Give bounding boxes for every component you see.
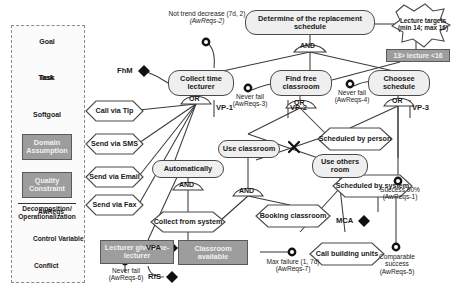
legend-domain-assumption: Domain Assumption xyxy=(22,134,72,160)
goal-find-free-classroom[interactable]: Find free classroom xyxy=(270,70,332,96)
awreqs-5-text: Comparable success xyxy=(379,253,415,267)
awreqs-2-text: Not trend decrease (7d, 2) xyxy=(169,10,246,17)
connector-or-findfree: OR xyxy=(294,99,305,106)
goal-use-classroom[interactable]: Use classroom xyxy=(218,140,280,158)
task-send-via-email[interactable]: Send via Email xyxy=(86,167,143,187)
awreqs-1-text: Success 90% xyxy=(380,186,420,193)
awreqs-5-ref: (AwReqs-5) xyxy=(380,268,415,275)
control-variable-mca: MCA xyxy=(336,216,353,225)
awreqs-2-label: Not trend decrease (7d, 2) (AwReqs-2) xyxy=(163,10,251,25)
legend-control-variable-label: Control Variable xyxy=(33,235,85,242)
legend-quality-constraint: Quality Constraint xyxy=(22,172,72,198)
awreqs-7-ref: (AwReqs-7) xyxy=(276,265,311,272)
awreqs-1-label: Success 90% (AwReqs-1) xyxy=(371,186,429,201)
awreqs-7-text: Max failure (1, 7d) xyxy=(266,258,319,265)
quality-constraint-lecture-range[interactable]: 13> lecture <16 xyxy=(386,49,450,62)
task-call-via-tlp[interactable]: Call via Tlp xyxy=(86,101,143,121)
softgoal-lecture-targets[interactable]: Lecture targets (min 14; max 16) xyxy=(394,14,452,36)
awreqs-3-ref: (AwReqs-3) xyxy=(233,100,268,107)
awreqs-5-label: Comparable success (AwReqs-5) xyxy=(368,253,426,275)
goal-automatically[interactable]: Automatically xyxy=(152,160,224,178)
legend-label-task: Task xyxy=(11,74,83,82)
control-variable-fhm: FhM xyxy=(117,66,133,75)
task-send-via-sms[interactable]: Send via SMS xyxy=(86,134,143,154)
domain-assumption-lecturer-give-time[interactable]: Lecturer give time-lecturer xyxy=(100,240,174,264)
control-variable-rfs: RfS xyxy=(148,272,161,281)
connector-or-collect: OR xyxy=(189,95,200,102)
awreqs-4-ref: (AwReqs-4) xyxy=(335,96,370,103)
connector-or-choosee: OR xyxy=(392,97,403,104)
awreqs-3-text: Never fail xyxy=(236,93,264,100)
task-booking-classroom[interactable]: Booking classroom xyxy=(256,205,330,227)
control-variable-vpa: VPA xyxy=(146,243,161,252)
legend-divider xyxy=(18,203,76,204)
legend-label-softgoal: Softgoal xyxy=(11,111,83,119)
diagram-canvas: Goal Task Softgoal Domain Assumption Qua… xyxy=(0,0,466,307)
variation-point-vp1: VP-1 xyxy=(216,103,233,112)
connector-and-useclassroom: AND xyxy=(239,187,254,194)
goal-determine-replacement-schedule[interactable]: Determine of the replacement schedule xyxy=(245,10,375,35)
awreqs-7-label: Max failure (1, 7d) (AwReqs-7) xyxy=(266,258,320,273)
connector-and-automatically: AND xyxy=(179,181,194,188)
awreqs-4-text: Never fail xyxy=(338,89,366,96)
awreqs-6-text: Never fail xyxy=(112,267,140,274)
awreqs-2-ref: (AwReqs-2) xyxy=(190,17,225,24)
task-collect-from-system[interactable]: Collect from system xyxy=(151,212,225,232)
task-scheduled-by-person[interactable]: Scheduled by person xyxy=(318,128,392,150)
legend-relation-label: Decomposition/ Operationalization xyxy=(11,205,83,220)
domain-assumption-classroom-available[interactable]: Classroom available xyxy=(178,240,248,265)
awreqs-6-label: Never fail (AwReqs-6) xyxy=(97,267,155,282)
legend-conflict-label: Conflict xyxy=(34,262,78,269)
variation-point-vp3: VP-3 xyxy=(412,103,429,112)
task-send-via-fax[interactable]: Send via Fax xyxy=(86,195,143,215)
connector-and-root: AND xyxy=(300,42,315,49)
awreqs-6-ref: (AwReqs-6) xyxy=(109,274,144,281)
legend-label-goal: Goal xyxy=(11,38,83,46)
awreqs-4-label: Never fail (AwReqs-4) xyxy=(324,89,380,104)
awreqs-1-ref: (AwReqs-1) xyxy=(383,193,418,200)
